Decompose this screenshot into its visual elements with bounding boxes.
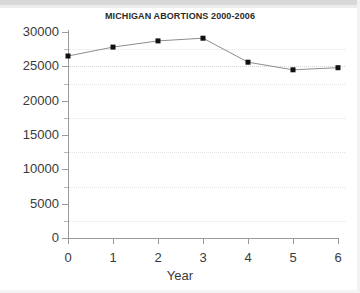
data-point-marker <box>246 60 251 65</box>
data-point-marker <box>111 45 116 50</box>
data-series <box>0 0 360 293</box>
data-point-marker <box>291 67 296 72</box>
data-point-marker <box>66 54 71 59</box>
chart-image: MICHIGAN ABORTIONS 2000-2006 05000100001… <box>0 0 360 293</box>
series-markers <box>66 36 341 73</box>
series-line <box>68 38 338 70</box>
data-point-marker <box>336 65 341 70</box>
x-axis-title: Year <box>0 268 360 283</box>
data-point-marker <box>201 36 206 41</box>
data-point-marker <box>156 38 161 43</box>
plot-area: 050001000015000200002500030000 0123456 <box>0 0 360 293</box>
